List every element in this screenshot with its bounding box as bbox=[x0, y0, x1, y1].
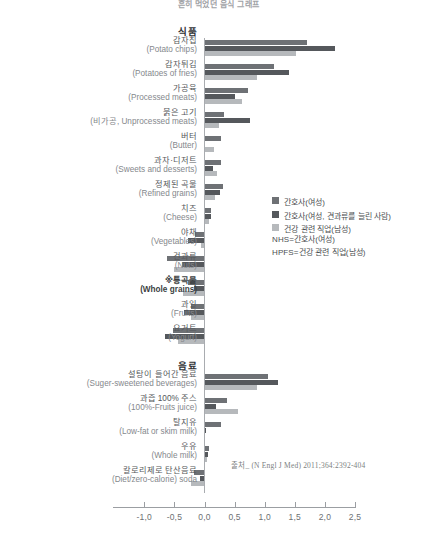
category-label-en: (Diet/zero-calorie) soda bbox=[0, 475, 197, 484]
category-label-en: (Vegetables) bbox=[0, 237, 197, 246]
category-label-kr: 과즙 100% 주스 bbox=[0, 394, 197, 403]
category-label-en: (Whole milk) bbox=[0, 451, 197, 460]
bar bbox=[205, 94, 235, 99]
bar bbox=[205, 428, 206, 433]
legend: 간호사(여성)간호사(여성, 견과류를 늘린 사람)건강 관련 직업(남성) N… bbox=[272, 192, 391, 260]
legend-swatch bbox=[272, 211, 279, 218]
category-label-kr: 붉은 고기 bbox=[0, 108, 197, 117]
category-label-en: (Potatoes of fries) bbox=[0, 69, 197, 78]
legend-swatch bbox=[272, 197, 279, 204]
category-label-en: (Nuts) bbox=[0, 261, 197, 270]
category-label: 건과류(Nuts) bbox=[0, 252, 197, 270]
category-label-en: (Potato chips) bbox=[0, 45, 197, 54]
chart-root: 흔히 먹었던 음식 그래프 식품감자칩(Potato chips)감자튀김(Po… bbox=[0, 0, 437, 548]
category-label-en: (Refined grains) bbox=[0, 189, 197, 198]
category-label-en: (비가공, Unprocessed meats) bbox=[0, 117, 197, 126]
bar bbox=[205, 214, 211, 219]
bar bbox=[205, 195, 216, 200]
axis-tick bbox=[205, 502, 206, 508]
legend-note: NHS=간호사(여성) bbox=[272, 233, 391, 247]
bar bbox=[205, 160, 222, 165]
category-label: 치즈(Cheese) bbox=[0, 204, 197, 222]
category-label: 과즙 100% 주스(100%-Fruits juice) bbox=[0, 394, 197, 412]
bar bbox=[205, 99, 242, 104]
category-label: 탈지유(Low-fat or skim milk) bbox=[0, 418, 197, 436]
category-label-en: (Processed meats) bbox=[0, 93, 197, 102]
category-label: ※통곡물(Whole grains) bbox=[0, 276, 197, 294]
category-label-kr: 탈지유 bbox=[0, 418, 197, 427]
category-label: 야채(Vegetables) bbox=[0, 228, 197, 246]
bar bbox=[205, 118, 250, 123]
category-label-kr: 우유 bbox=[0, 442, 197, 451]
bar bbox=[205, 409, 239, 414]
bar bbox=[205, 457, 207, 462]
category-label-en: (Whole grains) bbox=[0, 285, 197, 294]
category-label: 버터(Butter) bbox=[0, 132, 197, 150]
bar bbox=[205, 398, 228, 403]
bar bbox=[205, 422, 221, 427]
category-label: 요거트(Yogurt) bbox=[0, 324, 197, 342]
category-label: 가공육(Processed meats) bbox=[0, 84, 197, 102]
category-label-en: (Yogurt) bbox=[0, 333, 197, 342]
category-label: 붉은 고기(비가공, Unprocessed meats) bbox=[0, 108, 197, 126]
bar bbox=[205, 147, 215, 152]
category-label-kr: 감자튀김 bbox=[0, 60, 197, 69]
category-label-kr: 건과류 bbox=[0, 252, 197, 261]
bar bbox=[201, 243, 205, 248]
bar bbox=[205, 404, 216, 409]
axis-tick-label: 2,5 bbox=[335, 512, 375, 522]
category-label: 감자칩(Potato chips) bbox=[0, 36, 197, 54]
category-label-kr: 가공육 bbox=[0, 84, 197, 93]
bar bbox=[205, 374, 268, 379]
axis-tick bbox=[235, 502, 236, 508]
category-label-en: (100%-Fruits juice) bbox=[0, 403, 197, 412]
category-label-en: (Suger-sweetened beverages) bbox=[0, 379, 197, 388]
category-label-kr: 칼로리제로 탄산음료 bbox=[0, 466, 197, 475]
bar bbox=[205, 136, 222, 141]
category-label-en: (Low-fat or skim milk) bbox=[0, 427, 197, 436]
category-label-kr: 정제된 곡물 bbox=[0, 180, 197, 189]
bar bbox=[205, 452, 208, 457]
bar bbox=[205, 208, 212, 213]
category-label: 칼로리제로 탄산음료(Diet/zero-calorie) soda bbox=[0, 466, 197, 484]
axis-tick bbox=[265, 502, 266, 508]
axis-tick bbox=[144, 502, 145, 508]
axis-tick bbox=[355, 502, 356, 508]
bar bbox=[205, 64, 274, 69]
bar bbox=[205, 171, 217, 176]
category-label: 우유(Whole milk) bbox=[0, 442, 197, 460]
category-label-kr: 버터 bbox=[0, 132, 197, 141]
category-label-kr: 야채 bbox=[0, 228, 197, 237]
category-label: 정제된 곡물(Refined grains) bbox=[0, 180, 197, 198]
bar bbox=[205, 166, 213, 171]
legend-item: 간호사(여성) bbox=[272, 192, 391, 206]
bar bbox=[200, 476, 204, 481]
category-label-en: (Cheese) bbox=[0, 213, 197, 222]
bar bbox=[205, 88, 248, 93]
category-label-en: (Sweets and desserts) bbox=[0, 165, 197, 174]
legend-item: 건강 관련 직업(남성) bbox=[272, 219, 391, 233]
axis-tick bbox=[295, 502, 296, 508]
category-label: 감자튀김(Potatoes of fries) bbox=[0, 60, 197, 78]
category-label-kr: 치즈 bbox=[0, 204, 197, 213]
category-label: 과일(Fruits) bbox=[0, 300, 197, 318]
bar bbox=[205, 184, 223, 189]
bar bbox=[205, 219, 210, 224]
category-label-en: (Fruits) bbox=[0, 309, 197, 318]
bar bbox=[205, 123, 219, 128]
category-label-kr: ※통곡물 bbox=[0, 276, 197, 285]
axis-tick bbox=[325, 502, 326, 508]
bar bbox=[205, 46, 336, 51]
bar bbox=[205, 70, 289, 75]
bar bbox=[205, 75, 258, 80]
category-label-kr: 요거트 bbox=[0, 324, 197, 333]
category-label: 설탕이 들어간 음료(Suger-sweetened beverages) bbox=[0, 370, 197, 388]
bar bbox=[205, 190, 221, 195]
source-citation: 출처_ (N Engl J Med) 2011;364:2392-404 bbox=[231, 459, 365, 470]
legend-item: 간호사(여성, 견과류를 늘린 사람) bbox=[272, 206, 391, 220]
category-label-kr: 감자칩 bbox=[0, 36, 197, 45]
bar bbox=[205, 112, 225, 117]
bar bbox=[205, 446, 210, 451]
bar bbox=[205, 51, 297, 56]
category-label-kr: 과자·디저트 bbox=[0, 156, 197, 165]
